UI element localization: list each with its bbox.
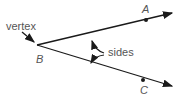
ray-bc [37,45,172,86]
sides-label: sides [108,46,134,58]
point-a-label: A [142,3,149,15]
vertex-label: vertex [6,20,36,32]
angle-diagram [0,0,180,103]
point-c-label: C [140,84,148,96]
ray-ba [37,13,172,45]
point-a-dot [144,18,148,22]
sides-pointer-upper [92,41,104,53]
point-c-dot [141,78,145,82]
point-b-label: B [36,53,43,65]
vertex-pointer-arrow [22,32,34,42]
